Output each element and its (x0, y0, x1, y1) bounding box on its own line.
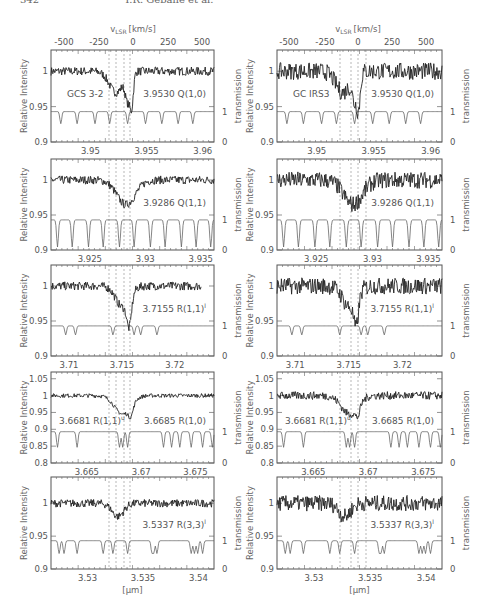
transmission-curve (51, 220, 214, 247)
y-axis-label: Relative Intensity (245, 59, 255, 133)
velocity-axis-label: vLSR[km/s] (110, 24, 156, 35)
spectrum-panel: 10.950.910Relative Intensitytransmission… (245, 477, 471, 595)
x-tick-label: 3.93 (363, 254, 382, 264)
x-tick-label: 3.72 (165, 360, 184, 370)
velocity-tick-label: 0 (355, 37, 360, 47)
y2-tick-label: 1 (450, 107, 455, 117)
y-tick-label: 1.05 (29, 374, 48, 384)
x-tick-label: 3.925 (78, 254, 102, 264)
spectra-figure: 10.950.910Relative Intensitytransmission… (0, 0, 484, 606)
y-tick-label: 0.8 (260, 458, 274, 468)
transmission-curve (51, 326, 214, 335)
transmission-curve (277, 326, 442, 335)
y-tick-label: 1 (43, 281, 48, 291)
x-tick-label: 3.96 (421, 146, 440, 156)
x-tick-label: 3.71 (60, 360, 79, 370)
transmission-curve (277, 112, 442, 124)
x-tick-label: 3.925 (304, 254, 328, 264)
line-label: 3.7155 R(1,1)l (370, 302, 434, 314)
velocity-tick-label: 500 (194, 37, 210, 47)
y-tick-label: 0.9 (34, 351, 48, 361)
source-label: GCS 3-2 (67, 89, 104, 99)
velocity-tick-label: 500 (418, 37, 434, 47)
x-tick-label: 3.53 (305, 573, 324, 583)
y2-tick-label: 1 (450, 536, 455, 546)
y2-axis-label: transmission (461, 283, 471, 337)
y2-tick-label: 0 (450, 458, 455, 468)
y-axis-label: Relative Intensity (245, 486, 255, 560)
x-tick-label: 3.53 (78, 573, 97, 583)
y-axis-label: Relative Intensity (245, 168, 255, 242)
x-tick-label: 3.54 (189, 573, 208, 583)
y-tick-label: 0.95 (29, 407, 48, 417)
line-label: 3.9530 Q(1,0) (143, 89, 206, 99)
y-tick-label: 0.95 (29, 210, 48, 220)
y-tick-label: 1 (269, 498, 274, 508)
y2-tick-label: 0 (450, 137, 455, 147)
y-tick-label: 0.9 (34, 137, 48, 147)
spectrum-panel: 10.950.910Relative Intensitytransmission… (245, 265, 471, 370)
y-tick-label: 1 (269, 66, 274, 76)
y2-tick-label: 0 (222, 351, 227, 361)
velocity-tick-label: -250 (89, 37, 108, 47)
x-tick-label: 3.535 (131, 573, 155, 583)
x-tick-label: 3.935 (416, 254, 440, 264)
line-label-secondary: 3.6681 R(1,1)u (285, 414, 351, 426)
velocity-tick-label: -500 (279, 37, 298, 47)
y2-tick-label: 0 (450, 245, 455, 255)
y2-axis-label: transmission (233, 177, 243, 231)
velocity-tick-label: 250 (384, 37, 400, 47)
x-tick-label: 3.72 (393, 360, 412, 370)
line-label-secondary: 3.6681 R(1,1)u (59, 414, 125, 426)
line-label: 3.7155 R(1,1)l (142, 302, 206, 314)
y2-axis-label: transmission (461, 69, 471, 123)
y2-tick-label: 1 (450, 321, 455, 331)
x-tick-label: 3.665 (301, 467, 325, 477)
x-axis-label: [μm] (349, 585, 369, 595)
spectrum-panel: 10.950.910Relative Intensitytransmission… (245, 159, 471, 264)
x-tick-label: 3.955 (134, 146, 158, 156)
y-axis-label: Relative Intensity (245, 381, 255, 455)
y2-axis-label: transmission (461, 390, 471, 444)
source-label: GC IRS3 (293, 89, 329, 99)
y2-tick-label: 1 (450, 427, 455, 437)
y2-axis-label: transmission (461, 496, 471, 550)
y-tick-label: 0.9 (260, 424, 274, 434)
y-tick-label: 0.95 (255, 407, 274, 417)
x-tick-label: 3.715 (337, 360, 361, 370)
spectrum-panel: 1.0510.950.90.850.810Relative Intensityt… (19, 372, 243, 477)
y-tick-label: 0.95 (255, 102, 274, 112)
y-tick-label: 1.05 (255, 374, 274, 384)
y-tick-label: 0.9 (260, 351, 274, 361)
transmission-curve (51, 541, 214, 554)
y2-tick-label: 0 (222, 458, 227, 468)
x-tick-label: 3.67 (132, 467, 151, 477)
y-tick-label: 0.8 (34, 458, 48, 468)
x-axis-label: [μm] (122, 585, 142, 595)
x-tick-label: 3.935 (189, 254, 213, 264)
y-tick-label: 0.9 (260, 137, 274, 147)
y-axis-label: Relative Intensity (19, 274, 29, 348)
spectrum-line (277, 278, 442, 326)
line-label: 3.5337 R(3,3)l (370, 518, 434, 530)
line-label: 3.5337 R(3,3)l (142, 518, 206, 530)
x-tick-label: 3.675 (183, 467, 207, 477)
y-tick-label: 0.95 (29, 316, 48, 326)
y-axis-label: Relative Intensity (19, 168, 29, 242)
x-tick-label: 3.675 (411, 467, 435, 477)
y-tick-label: 0.9 (34, 245, 48, 255)
y-axis-label: Relative Intensity (19, 486, 29, 560)
y-tick-label: 1 (43, 498, 48, 508)
y-tick-label: 0.85 (29, 441, 48, 451)
x-tick-label: 3.71 (286, 360, 305, 370)
y-tick-label: 0.9 (260, 564, 274, 574)
line-label: 3.9530 Q(1,0) (371, 89, 434, 99)
transmission-curve (277, 220, 442, 247)
spectrum-panel: 1.0510.950.90.850.810Relative Intensityt… (245, 372, 471, 477)
y-tick-label: 0.95 (29, 531, 48, 541)
velocity-axis-label: vLSR[km/s] (335, 24, 381, 35)
y-tick-label: 0.9 (34, 564, 48, 574)
y2-axis-label: transmission (233, 390, 243, 444)
x-tick-label: 3.715 (110, 360, 134, 370)
y2-tick-label: 0 (450, 564, 455, 574)
